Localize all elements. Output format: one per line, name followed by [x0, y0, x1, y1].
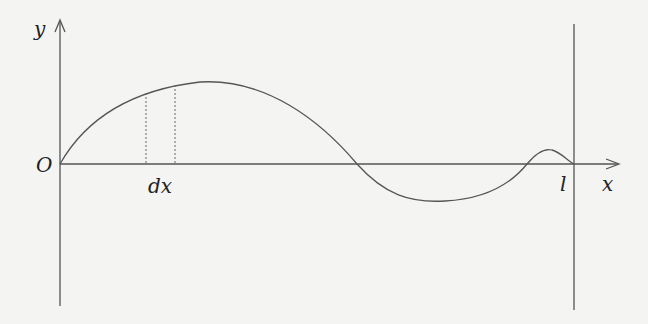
x-axis-label: x — [602, 172, 613, 196]
string-displacement-diagram: y O dx l x — [0, 0, 648, 324]
diagram-svg: y O dx l x — [0, 0, 648, 324]
length-label: l — [560, 172, 566, 196]
y-axis-label: y — [33, 17, 46, 41]
string-curve — [60, 82, 574, 202]
dx-label: dx — [148, 174, 172, 198]
origin-label: O — [36, 153, 52, 177]
